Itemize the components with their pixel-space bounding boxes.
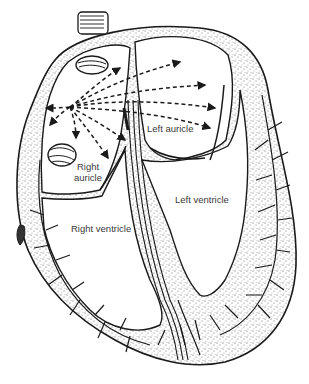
vena-cava-top <box>78 12 108 34</box>
label-right-auricle: Right auricle <box>74 161 102 183</box>
inferior-vessel-stub <box>17 225 25 245</box>
heart-diagram <box>0 0 309 384</box>
label-left-auricle: Left auricle <box>147 123 193 134</box>
label-left-ventricle: Left ventricle <box>175 194 229 205</box>
left-auricle-chamber <box>135 37 232 160</box>
label-right-ventricle: Right ventricle <box>71 223 131 234</box>
coronary-sinus-opening <box>48 144 76 166</box>
vena-cava-opening <box>76 56 108 74</box>
